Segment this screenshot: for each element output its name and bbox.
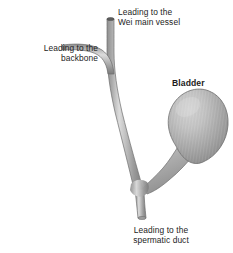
label-backbone: Leading to the backbone (12, 43, 98, 64)
anatomical-diagram: Leading to the Wei main vessel Leading t… (0, 0, 233, 253)
bladder-organ (143, 89, 228, 194)
duct-junction (130, 180, 149, 197)
lower-duct-opening (138, 217, 146, 220)
label-bladder: Bladder (172, 78, 205, 88)
label-bladder-line1: Bladder (172, 78, 205, 88)
label-wei-line2: Wei main vessel (118, 17, 180, 27)
anatomy-illustration (0, 0, 233, 253)
label-spermatic-duct: Leading to the spermatic duct (112, 225, 210, 246)
upper-duct (107, 18, 143, 190)
upper-duct-shaft (107, 19, 143, 189)
label-backbone-line2: backbone (12, 53, 98, 63)
label-backbone-line1: Leading to the (12, 43, 98, 53)
label-spermatic-line2: spermatic duct (112, 235, 210, 245)
upper-duct-opening (107, 18, 114, 21)
label-spermatic-line1: Leading to the (112, 225, 210, 235)
label-wei-main-vessel: Leading to the Wei main vessel (118, 7, 180, 28)
label-wei-line1: Leading to the (118, 7, 180, 17)
